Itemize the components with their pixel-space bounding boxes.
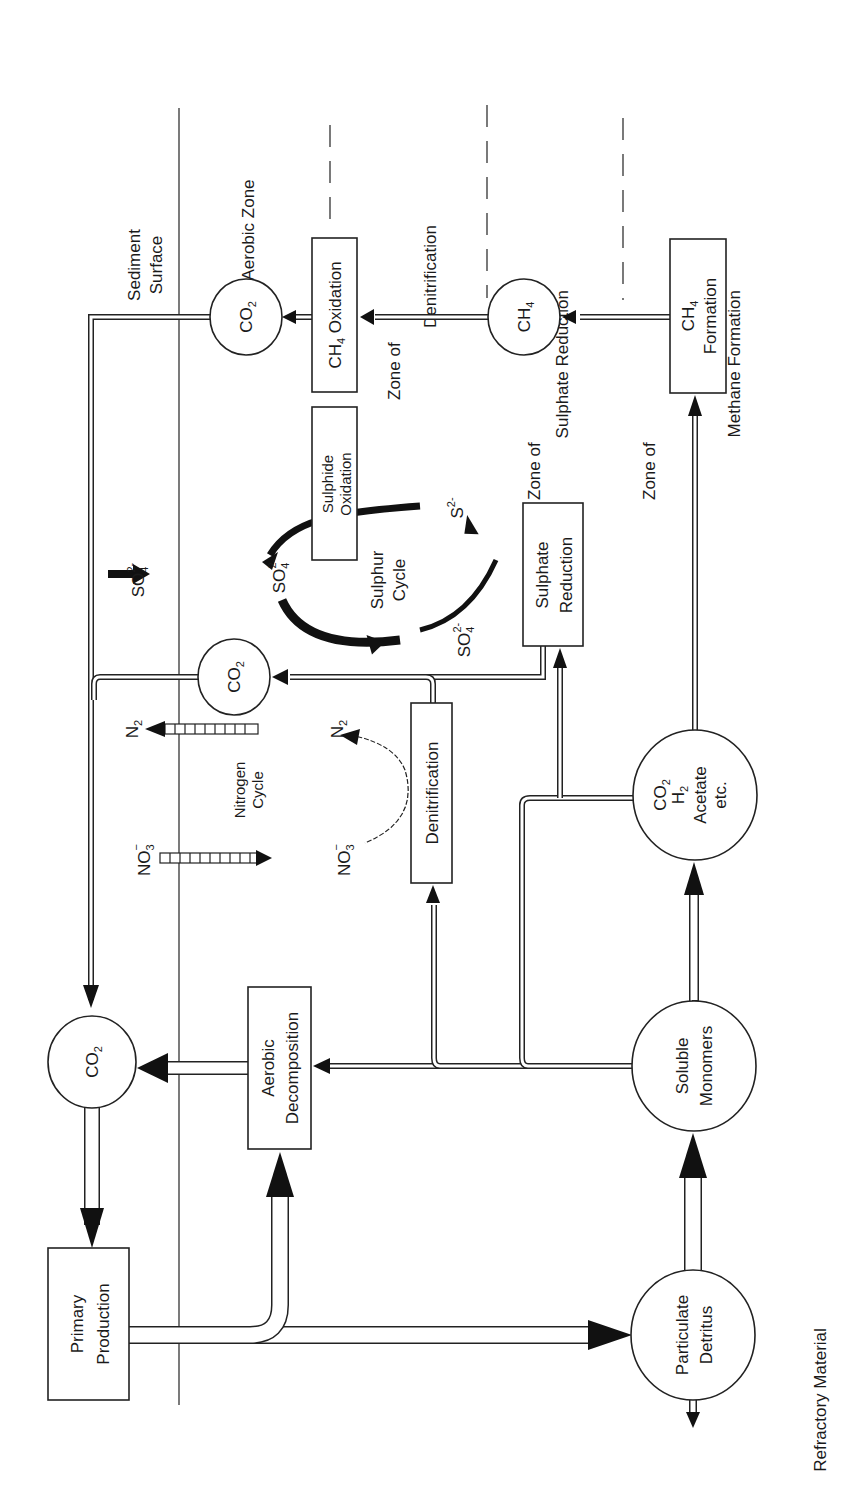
arrow-head-icon bbox=[684, 862, 704, 895]
svg-text:Refractory Material: Refractory Material bbox=[811, 1328, 830, 1472]
node-ch4: CH4 bbox=[488, 279, 560, 355]
sediment-cycle-diagram: Sediment Surface Aerobic Zone Zone of De… bbox=[0, 0, 844, 1494]
arrow-head-icon bbox=[83, 985, 99, 1008]
svg-text:Monomers: Monomers bbox=[697, 1026, 716, 1106]
svg-text:Nitrogen: Nitrogen bbox=[231, 762, 248, 819]
arrow-head-icon bbox=[679, 1133, 707, 1178]
svg-text:Primary: Primary bbox=[68, 1294, 87, 1353]
svg-text:NO3−: NO3− bbox=[130, 844, 156, 876]
flow-pipes bbox=[91, 317, 695, 1415]
svg-text:Oxidation: Oxidation bbox=[337, 452, 354, 515]
svg-text:SO42-: SO42- bbox=[266, 558, 291, 593]
svg-text:N2: N2 bbox=[328, 720, 349, 738]
svg-text:Aerobic Zone: Aerobic Zone bbox=[239, 179, 258, 280]
svg-text:N2: N2 bbox=[123, 720, 144, 738]
box-denitrification: Denitrification bbox=[411, 703, 452, 883]
arrow-head-icon bbox=[282, 310, 296, 324]
arrow-head-icon bbox=[313, 1058, 330, 1074]
box-primary-production: Primary Production bbox=[48, 1248, 129, 1400]
node-fermentation-products: CO2 H2 Acetate etc. bbox=[633, 730, 757, 860]
arrow-heads bbox=[80, 309, 707, 1428]
svg-text:Formation: Formation bbox=[701, 278, 720, 355]
box-ch4-oxidation: CH4 Oxidation bbox=[312, 238, 357, 392]
svg-text:etc.: etc. bbox=[711, 781, 730, 808]
label-no3-surface: NO3− bbox=[130, 844, 156, 876]
node-co2-main: CO2 bbox=[48, 1016, 136, 1108]
svg-text:Reduction: Reduction bbox=[557, 537, 576, 614]
svg-text:S2-: S2- bbox=[445, 497, 467, 518]
svg-text:Soluble: Soluble bbox=[673, 1038, 692, 1095]
arrow-head-icon bbox=[272, 669, 288, 685]
nitrogen-cycle-arrows bbox=[145, 721, 408, 866]
svg-text:Sulphate: Sulphate bbox=[533, 541, 552, 608]
box-sulphide-oxidation: Sulphide Oxidation bbox=[312, 407, 357, 560]
svg-text:SO42-: SO42- bbox=[451, 622, 476, 657]
node-co2-mid: CO2 bbox=[198, 639, 270, 715]
box-aerobic-decomposition: Aerobic Decomposition bbox=[248, 987, 311, 1149]
arrow-head-icon bbox=[266, 1152, 294, 1197]
svg-text:Aerobic: Aerobic bbox=[259, 1039, 278, 1097]
label-so4-bottom: SO42- bbox=[451, 622, 476, 657]
label-so4-surface: SO42- bbox=[125, 562, 150, 597]
svg-text:Sulphide: Sulphide bbox=[319, 455, 336, 513]
svg-text:Denitrification: Denitrification bbox=[421, 225, 440, 328]
box-sulphate-reduction: Sulphate Reduction bbox=[523, 503, 583, 646]
svg-text:Particulate: Particulate bbox=[673, 1295, 692, 1375]
label-so4-top: SO42- bbox=[266, 558, 291, 593]
svg-text:Surface: Surface bbox=[147, 236, 166, 295]
label-sulphide: S2- bbox=[445, 497, 467, 518]
svg-text:Sulphur: Sulphur bbox=[368, 550, 387, 609]
arrow-head-icon bbox=[688, 395, 702, 416]
svg-text:Cycle: Cycle bbox=[390, 559, 409, 602]
box-ch4-formation: CH4 Formation bbox=[670, 239, 726, 393]
svg-text:Production: Production bbox=[94, 1283, 113, 1364]
svg-text:Acetate: Acetate bbox=[691, 766, 710, 824]
arrow-head-icon bbox=[686, 1412, 700, 1428]
svg-text:Methane Formation: Methane Formation bbox=[725, 290, 744, 437]
label-no3-sediment: NO3− bbox=[330, 844, 356, 876]
label-refractory-material: Refractory Material bbox=[811, 1328, 830, 1472]
arrow-head-icon bbox=[80, 1208, 104, 1248]
sulphur-cycle-arrows bbox=[108, 506, 496, 655]
zone-label-denitrification: Zone of Denitrification bbox=[385, 225, 440, 400]
svg-text:SO42-: SO42- bbox=[125, 562, 150, 597]
svg-text:Zone of: Zone of bbox=[640, 442, 659, 500]
arrow-head-icon bbox=[553, 648, 567, 668]
svg-text:Decomposition: Decomposition bbox=[283, 1012, 302, 1124]
svg-text:CH4 Oxidation: CH4 Oxidation bbox=[326, 261, 347, 368]
node-co2-top: CO2 bbox=[210, 279, 282, 355]
label-n2-surface: N2 bbox=[123, 720, 144, 738]
svg-text:Zone of: Zone of bbox=[525, 442, 544, 500]
svg-text:Detritus: Detritus bbox=[697, 1306, 716, 1365]
svg-text:Cycle: Cycle bbox=[249, 771, 266, 809]
zone-label-sediment-surface: Sediment Surface bbox=[125, 229, 166, 301]
nitrogen-cycle-label: Nitrogen Cycle bbox=[231, 762, 266, 819]
arrow-head-icon bbox=[137, 1053, 168, 1083]
svg-text:Denitrification: Denitrification bbox=[423, 742, 442, 845]
node-soluble-monomers: Soluble Monomers bbox=[632, 1001, 756, 1131]
node-particulate-detritus: Particulate Detritus bbox=[631, 1270, 755, 1400]
arrow-head-icon bbox=[588, 1320, 632, 1350]
svg-text:Zone of: Zone of bbox=[385, 342, 404, 400]
label-n2-sediment: N2 bbox=[328, 720, 349, 738]
zone-label-aerobic: Aerobic Zone bbox=[239, 179, 258, 280]
arrow-head-icon bbox=[426, 885, 440, 903]
sulphur-cycle-label: Sulphur Cycle bbox=[368, 550, 409, 609]
svg-text:Sediment: Sediment bbox=[125, 229, 144, 301]
svg-text:NO3−: NO3− bbox=[330, 844, 356, 876]
arrow-head-icon bbox=[360, 309, 374, 325]
